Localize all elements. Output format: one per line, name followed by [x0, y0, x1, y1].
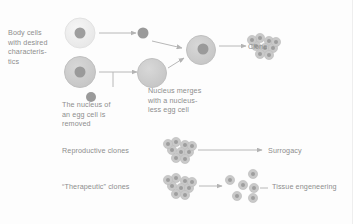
nucleus-removed-label: The nucleus of an egg cell is removed	[62, 100, 142, 129]
nucleus-icon	[75, 28, 86, 39]
cloning-diagram-figure: Body cells with desired characteris- tic…	[0, 0, 353, 224]
donor-body-cell-top	[65, 18, 95, 48]
nucleus-merges-label: Nucleus merges with a nucleus- less egg …	[148, 86, 218, 115]
egg-cell-with-nucleus	[65, 57, 96, 88]
clone-label: Clone	[248, 42, 267, 52]
dispersed-differentiated-cells	[225, 169, 258, 202]
body-cells-label: Body cells with desired characteris- tic…	[8, 28, 68, 66]
therapeutic-clone-cluster	[163, 173, 196, 199]
extracted-nucleus-icon	[138, 28, 149, 39]
egg-nucleus-icon	[75, 67, 86, 78]
reproductive-clones-label: Reproductive clones	[62, 146, 129, 156]
reproductive-clone-cluster	[163, 137, 196, 163]
tissue-engineering-label: Tissue engeneering	[272, 182, 337, 192]
fused-nucleus-icon	[198, 44, 209, 55]
nucleus-to-fusion-arrow	[152, 41, 182, 48]
therapeutic-clones-label: “Therapeutic” clones	[62, 182, 130, 192]
enucleated-egg-cell	[138, 59, 167, 88]
surrogacy-label: Surrogacy	[268, 146, 302, 156]
fused-cell	[187, 36, 216, 65]
egg-to-fusion-arrow	[168, 58, 184, 68]
